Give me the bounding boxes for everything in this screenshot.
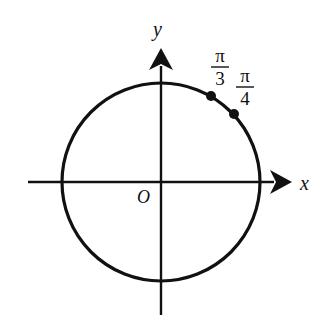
label-pi-over-3: π 3 (211, 45, 229, 89)
fraction-numerator: π (215, 45, 225, 66)
fraction-denominator: 3 (215, 68, 225, 89)
origin-label: O (137, 187, 150, 207)
x-axis-label: x (299, 172, 309, 194)
fraction-numerator: π (240, 65, 250, 86)
point-pi-over-3 (206, 91, 216, 101)
fraction-denominator: 4 (240, 88, 250, 109)
diagram-canvas: x y O π 3 π 4 (0, 0, 332, 331)
label-pi-over-4: π 4 (236, 65, 254, 109)
y-axis-label: y (151, 18, 162, 41)
unit-circle-diagram: x y O π 3 π 4 (0, 0, 332, 331)
point-pi-over-4 (229, 109, 239, 119)
